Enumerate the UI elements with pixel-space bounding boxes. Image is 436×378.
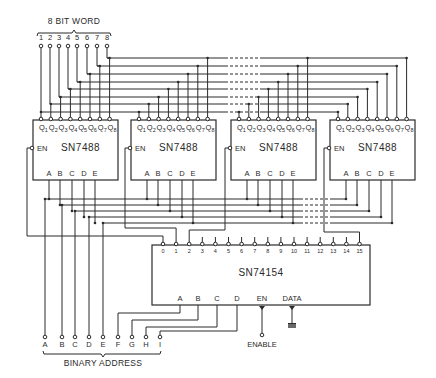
junction-dot [281,216,284,219]
chip-part-name: SN7488 [159,142,198,153]
address-pin-label: E [100,340,105,349]
decoder-output-label: 7 [253,248,256,254]
q-pin [385,117,389,121]
junction-dot [71,210,74,213]
input-label: C [366,169,372,178]
junction-dot [269,210,272,213]
q-pin [167,117,171,121]
circuit-diagram: 8 BIT WORD12345678Q1Q2Q3Q4Q5Q6Q7Q8ENSN74… [0,0,436,378]
q-pin [395,117,399,121]
word-pin-label: 3 [57,33,61,42]
enable-label: EN [235,144,245,153]
enable-pin [128,146,132,150]
decoder-output-pin [358,242,362,246]
q-pin [157,117,161,121]
decoder-output-pin [332,242,336,246]
q-pin [78,117,82,121]
decoder-output-label: 15 [356,248,362,254]
junction-dot [181,216,184,219]
chip-part-name: SN7488 [259,142,298,153]
enable-label: EN [334,144,344,153]
input-label: B [155,169,160,178]
word-pin-4 [66,44,70,48]
input-label: A [144,169,149,178]
input-label: E [389,169,394,178]
input-label: A [46,169,51,178]
address-pin-B [60,335,64,339]
word-pin-label: 6 [85,33,89,42]
word-pin-6 [85,44,89,48]
input-label: C [167,169,173,178]
word-pin-label: 7 [95,33,99,42]
data-arrow-icon [289,306,295,310]
decoder-output-pin [266,242,270,246]
junction-dot [59,204,62,207]
q-pin [108,117,112,121]
word-pin-label: 2 [48,33,52,42]
decoder-output-label: 0 [161,248,164,254]
junction-dot [292,222,295,225]
decoder-output-label: 14 [343,248,349,254]
address-pin-label: H [143,340,148,349]
junction-dot [380,216,383,219]
junction-dot [238,111,241,114]
q-pin [206,117,210,121]
address-pin-E [101,335,105,339]
decoder-input-label: D [234,294,240,303]
junction-dot [391,222,394,225]
enable-arrow-icon [259,306,265,310]
decoder-data-label: DATA [283,294,302,303]
q-pin [405,117,409,121]
decoder-output-label: 12 [317,248,323,254]
q-pin [375,117,379,121]
input-label: D [81,169,87,178]
input-label: D [179,169,185,178]
wire [43,351,161,357]
decoder-output-pin [187,242,191,246]
junction-dot [146,198,149,201]
q-pin [137,117,141,121]
address-pin-C [73,335,77,339]
word-pin-1 [39,44,43,48]
enable-label: ENABLE [247,340,277,349]
enable-pin [260,333,264,337]
junction-dot [246,198,249,201]
input-label: E [92,169,97,178]
junction-dot [356,204,359,207]
q-pin [306,117,310,121]
junction-dot [345,198,348,201]
input-label: C [69,169,75,178]
q-pin [147,117,151,121]
junction-dot [192,222,195,225]
word-pin-7 [95,44,99,48]
q-pin [49,117,53,121]
q-pin [237,117,241,121]
q-pin [276,117,280,121]
address-pin-H [144,335,148,339]
chip-part-name: SN7488 [358,142,397,153]
input-label: A [244,169,249,178]
decoder-output-label: 9 [279,248,282,254]
junction-dot [48,198,51,201]
address-pin-label: C [72,340,78,349]
q-pin [257,117,261,121]
address-pin-A [43,335,47,339]
input-label: A [343,169,348,178]
q-pin [98,117,102,121]
word-pin-label: 1 [39,33,43,42]
word-pin-label: 5 [75,33,79,42]
enable-label: EN [37,144,47,153]
input-label: C [267,169,273,178]
q-pin [39,117,43,121]
q-pin [346,117,350,121]
q-pin [286,117,290,121]
q-pin [69,117,73,121]
address-pin-label: F [116,340,121,349]
input-label: E [290,169,295,178]
decoder-output-pin [161,242,165,246]
decoder-input-label: B [195,294,200,303]
decoder-output-pin [345,242,349,246]
junction-dot [83,216,86,219]
decoder-output-label: 8 [266,248,269,254]
address-pin-label: A [42,340,47,349]
